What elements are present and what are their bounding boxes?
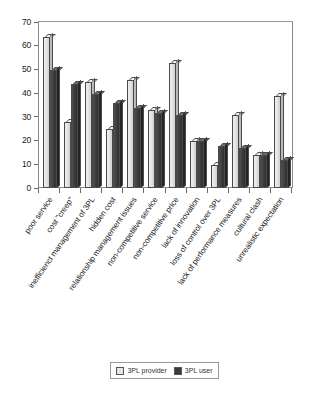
y-axis-tick: 0 (0, 183, 38, 193)
bar-group (60, 22, 81, 188)
bar-front-face (43, 37, 50, 188)
bar-side-face (78, 80, 81, 188)
bar-group (39, 22, 60, 188)
y-axis-tick: 60 (0, 41, 38, 51)
y-axis-tick-label: 60 (22, 41, 34, 50)
x-axis-tick (270, 188, 271, 193)
x-axis-tick (122, 188, 123, 193)
bar-provider (127, 77, 134, 188)
bar-side-face (120, 99, 123, 188)
bar-front-face (64, 122, 71, 188)
chart-legend: 3PL provider3PL user (110, 362, 219, 379)
bar-front-face (274, 96, 281, 188)
x-axis-tick (143, 188, 144, 193)
bar-front-face (281, 160, 288, 188)
x-axis-tick (291, 188, 292, 193)
bar-front-face (176, 115, 183, 188)
bar-side-face (267, 151, 270, 188)
y-axis-tick-label: 10 (22, 160, 34, 169)
legend-item-provider: 3PL provider (116, 367, 166, 375)
bar-side-face (99, 90, 102, 188)
bar-group (187, 22, 208, 188)
x-axis-tick (101, 188, 102, 193)
bar-front-face (211, 165, 218, 188)
legend-label-user: 3PL user (185, 367, 213, 374)
bar-front-face (218, 146, 225, 188)
bar-provider (190, 138, 197, 188)
bar-provider (211, 162, 218, 188)
bar-user (50, 67, 57, 188)
x-axis-tick (207, 188, 208, 193)
bar-group (250, 22, 271, 188)
legend-label-provider: 3PL provider (127, 367, 166, 374)
bar-front-face (92, 94, 99, 188)
bar-group (144, 22, 165, 188)
x-axis-tick (165, 188, 166, 193)
bar-user (260, 152, 267, 188)
bar-user (113, 100, 120, 188)
bar-front-face (127, 80, 134, 188)
bar-front-face (239, 148, 246, 188)
y-axis-tick: 20 (0, 136, 38, 146)
bar-front-face (253, 155, 260, 188)
bar-user (134, 105, 141, 188)
bar-group (229, 22, 250, 188)
bar-provider (169, 60, 176, 188)
bar-provider (148, 107, 155, 188)
bars-layer (39, 22, 292, 188)
y-axis-tick: 10 (0, 159, 38, 169)
bar-group (123, 22, 144, 188)
bar-user (239, 145, 246, 188)
bar-front-face (155, 113, 162, 188)
bar-side-face (246, 144, 249, 188)
y-axis-tick-label: 70 (22, 18, 34, 27)
bar-front-face (148, 110, 155, 188)
bar-user (281, 157, 288, 188)
x-axis-tick (38, 188, 39, 193)
legend-swatch-provider (116, 367, 124, 375)
bar-provider (253, 152, 260, 188)
y-axis-tick-label: 30 (22, 113, 34, 122)
bar-front-face (260, 155, 267, 188)
y-axis-tick: 50 (0, 64, 38, 74)
bar-front-face (190, 141, 197, 188)
bar-front-face (85, 82, 92, 188)
x-axis-tick (80, 188, 81, 193)
y-axis-tick-label: 20 (22, 136, 34, 145)
bar-front-face (71, 84, 78, 188)
bar-side-face (57, 66, 60, 188)
bar-group (271, 22, 292, 188)
bar-front-face (169, 63, 176, 188)
bar-provider (232, 112, 239, 188)
x-axis-tick (186, 188, 187, 193)
bar-front-face (113, 103, 120, 188)
bar-user (197, 138, 204, 188)
bar-side-face (183, 111, 186, 188)
legend-item-user: 3PL user (174, 367, 213, 375)
y-axis-tick-label: 0 (26, 184, 34, 193)
y-axis-tick: 40 (0, 88, 38, 98)
x-axis-tick (249, 188, 250, 193)
bar-front-face (106, 129, 113, 188)
bar-group (208, 22, 229, 188)
bar-provider (106, 126, 113, 188)
bar-side-face (204, 137, 207, 188)
bar-front-face (50, 70, 57, 188)
y-axis-tick-label: 50 (22, 65, 34, 74)
bar-side-face (225, 142, 228, 188)
y-axis-tick: 30 (0, 112, 38, 122)
legend-swatch-user (174, 367, 182, 375)
bar-front-face (134, 108, 141, 188)
bar-user (176, 112, 183, 188)
bar-side-face (162, 109, 165, 188)
bar-front-face (197, 141, 204, 188)
bar-group (166, 22, 187, 188)
bar-provider (85, 79, 92, 188)
category-labels: poor servicecost "creep"inefficienct man… (0, 194, 311, 334)
bar-user (92, 91, 99, 188)
bar-user (155, 110, 162, 188)
x-axis-tick (59, 188, 60, 193)
bar-user (71, 81, 78, 188)
bar-front-face (232, 115, 239, 188)
bar-provider (64, 119, 71, 188)
